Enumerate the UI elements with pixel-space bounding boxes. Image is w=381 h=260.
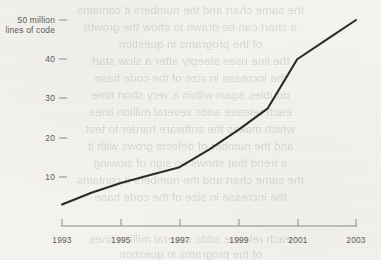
x-tick-label-1993: 1993 — [52, 235, 72, 245]
y-tick-label-10: 10 — [45, 172, 55, 182]
y-tick-label-40: 40 — [45, 54, 55, 64]
y-axis-labels: 50 million lines of code 40 30 20 10 — [5, 15, 55, 182]
x-tick-label-2003: 2003 — [346, 235, 366, 245]
x-axis-labels: 1993 1995 1997 1999 2001 2003 — [52, 235, 366, 245]
y-tick-label-30: 30 — [45, 93, 55, 103]
x-axis-ticks — [62, 219, 356, 226]
y-tick-label-20: 20 — [45, 133, 55, 143]
line-chart: the same chart and the numbers it contai… — [0, 0, 381, 260]
plot-area: 50 million lines of code 40 30 20 10 199… — [0, 0, 381, 260]
y-tick-label-50: 50 million — [18, 15, 56, 25]
x-tick-label-1999: 1999 — [229, 235, 249, 245]
x-tick-label-1997: 1997 — [170, 235, 190, 245]
data-series-line — [62, 20, 356, 204]
x-tick-label-2001: 2001 — [288, 235, 308, 245]
x-tick-label-1995: 1995 — [111, 235, 131, 245]
y-axis-caption: lines of code — [5, 25, 55, 35]
y-axis-ticks — [59, 20, 67, 177]
